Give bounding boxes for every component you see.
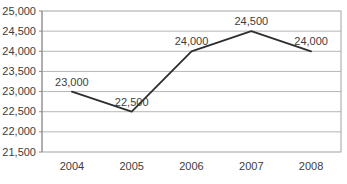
data-point-label: 24,500 — [234, 15, 268, 27]
y-tick-label: 25,000 — [2, 5, 36, 17]
data-point-label: 24,000 — [294, 35, 328, 47]
chart-canvas: 25,00024,50024,00023,50023,00022,50022,0… — [0, 0, 347, 184]
y-tick-label: 23,000 — [2, 85, 36, 97]
data-point-label: 23,000 — [55, 76, 89, 88]
y-tick-label: 24,000 — [2, 45, 36, 57]
y-tick-label: 21,500 — [2, 146, 36, 158]
data-point-label: 22,500 — [115, 96, 149, 108]
x-tick-label: 2008 — [299, 160, 323, 172]
y-tick-label: 24,500 — [2, 25, 36, 37]
x-tick-label: 2004 — [60, 160, 84, 172]
data-point-label: 24,000 — [175, 35, 209, 47]
y-tick-label: 22,000 — [2, 125, 36, 137]
x-tick-label: 2006 — [179, 160, 203, 172]
x-tick-label: 2005 — [119, 160, 143, 172]
y-tick-label: 22,500 — [2, 105, 36, 117]
x-tick-label: 2007 — [239, 160, 263, 172]
y-tick-label: 23,500 — [2, 65, 36, 77]
line-chart: 25,00024,50024,00023,50023,00022,50022,0… — [0, 0, 347, 184]
